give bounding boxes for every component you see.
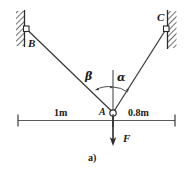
dimension-label-left: 1m [54,108,67,118]
pin-joint-c [164,26,170,32]
member-ab [28,30,113,112]
pin-joint-b [24,26,30,32]
label-angle-beta: β [85,71,92,82]
pin-b-square [24,26,30,32]
dimension-line [18,114,175,127]
label-force-f: F [123,133,130,144]
label-angle-alpha: α [117,72,125,83]
label-support-b: B [28,38,35,49]
angle-arc-beta-arrowhead [110,86,113,89]
label-joint-a: A [99,107,106,117]
label-support-c: C [157,12,164,23]
pin-c-square [164,26,170,32]
figure-caption: a) [88,153,96,163]
statics-figure: B C A F β α 1m 0.8m a) [0,0,184,178]
angle-arc-alpha [113,87,128,92]
dimension-label-right: 0.8m [128,108,149,118]
